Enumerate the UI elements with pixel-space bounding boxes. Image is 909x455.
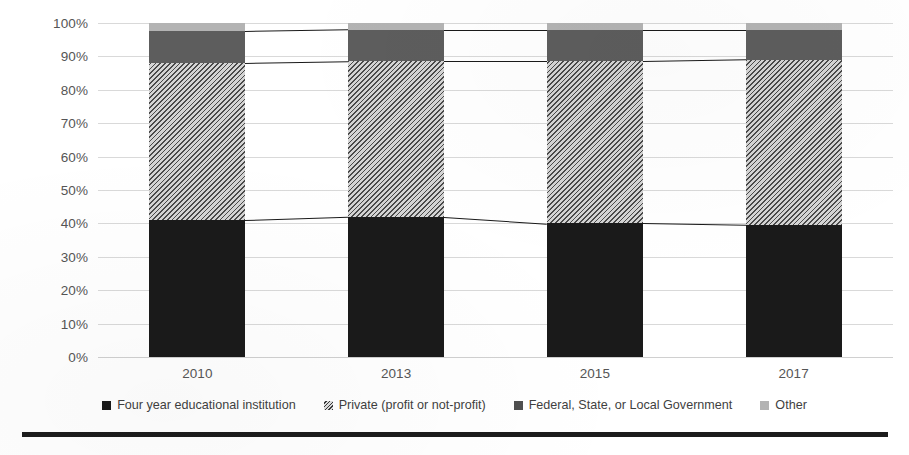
bar-segment[interactable]: [746, 60, 842, 225]
bar-2017[interactable]: [746, 23, 842, 357]
series-connector-line: [245, 217, 348, 221]
bar-segment[interactable]: [149, 63, 245, 220]
bar-2015[interactable]: [547, 23, 643, 357]
y-axis-tick-label: 20%: [2, 283, 88, 298]
y-axis-tick-label: 70%: [2, 116, 88, 131]
legend-label: Federal, State, or Local Government: [529, 398, 733, 412]
y-axis-tick-label: 10%: [2, 316, 88, 331]
legend-item[interactable]: Four year educational institution: [102, 398, 296, 412]
y-axis-tick-label: 50%: [2, 183, 88, 198]
bar-segment[interactable]: [348, 217, 444, 357]
series-connector-line: [444, 61, 547, 62]
bar-segment[interactable]: [547, 61, 643, 223]
x-axis-tick-label: 2010: [182, 366, 212, 381]
series-connector-line: [643, 30, 746, 31]
x-axis-tick-label: 2013: [381, 366, 411, 381]
bar-segment[interactable]: [149, 31, 245, 63]
legend-swatch-icon: [760, 401, 769, 410]
bar-segment[interactable]: [348, 61, 444, 216]
legend-label: Other: [775, 398, 807, 412]
y-axis-tick-label: 60%: [2, 149, 88, 164]
gridline-0%: [98, 357, 893, 358]
bar-segment[interactable]: [746, 225, 842, 357]
bar-segment[interactable]: [348, 30, 444, 62]
y-axis-tick-label: 100%: [2, 16, 88, 31]
bar-segment[interactable]: [547, 30, 643, 62]
series-connector-line: [444, 30, 547, 31]
legend-swatch-icon: [102, 401, 111, 410]
chart-legend: Four year educational institutionPrivate…: [0, 398, 909, 412]
bar-2013[interactable]: [348, 23, 444, 357]
legend-item[interactable]: Private (profit or not-profit): [324, 398, 486, 412]
series-connector-line: [245, 61, 348, 64]
y-axis: 0%10%20%30%40%50%60%70%80%90%100%: [0, 23, 88, 357]
legend-item[interactable]: Other: [760, 398, 807, 412]
y-axis-tick-label: 40%: [2, 216, 88, 231]
bar-segment[interactable]: [149, 23, 245, 31]
legend-label: Four year educational institution: [117, 398, 296, 412]
legend-swatch-icon: [514, 401, 523, 410]
y-axis-tick-label: 90%: [2, 49, 88, 64]
series-connector-line: [643, 60, 746, 63]
series-connector-line: [245, 30, 348, 33]
y-axis-tick-label: 30%: [2, 249, 88, 264]
legend-swatch-icon: [324, 401, 333, 410]
bar-segment[interactable]: [746, 23, 842, 30]
x-axis-tick-label: 2017: [779, 366, 809, 381]
y-axis-tick-label: 0%: [2, 350, 88, 365]
bottom-divider-rule: [22, 432, 888, 437]
x-axis-tick-label: 2015: [580, 366, 610, 381]
bar-segment[interactable]: [149, 220, 245, 357]
bar-2010[interactable]: [149, 23, 245, 357]
series-connector-line: [643, 223, 746, 226]
bar-segment[interactable]: [348, 23, 444, 30]
stacked-bar-chart: 0%10%20%30%40%50%60%70%80%90%100% Four y…: [0, 0, 909, 455]
y-axis-tick-label: 80%: [2, 82, 88, 97]
plot-area: [98, 23, 893, 357]
bar-segment[interactable]: [746, 30, 842, 60]
bar-segment[interactable]: [547, 223, 643, 357]
bar-segment[interactable]: [547, 23, 643, 30]
legend-item[interactable]: Federal, State, or Local Government: [514, 398, 733, 412]
legend-label: Private (profit or not-profit): [339, 398, 486, 412]
